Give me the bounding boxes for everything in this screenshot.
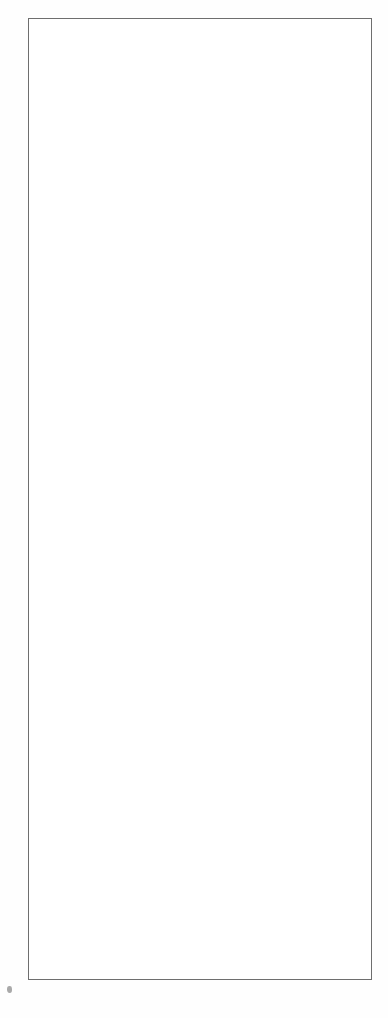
rotated-chart-wrapper: Assessment Score (%) 0%20%40%60%80%100% … xyxy=(29,19,371,979)
bar-chart: Assessment Score (%) 0%20%40%60%80%100% … xyxy=(29,19,62,328)
scan-artifact-speck xyxy=(7,986,12,993)
x-axis-title: Security Scope for Assessment xyxy=(29,19,44,210)
scanned-page: Assessment Score (%) 0%20%40%60%80%100% … xyxy=(0,0,388,1018)
